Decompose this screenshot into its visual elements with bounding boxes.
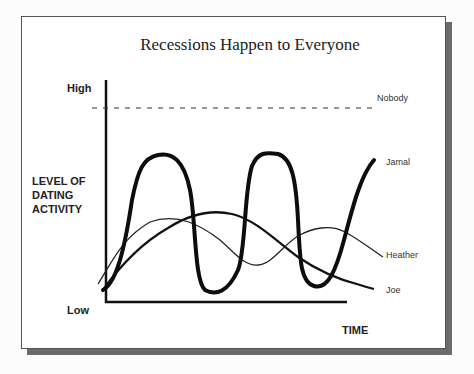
y-tick-low: Low [67,304,89,316]
y-axis-label-line2: DATING [32,189,73,201]
series-label-heather: Heather [386,250,418,260]
series-jamal-line [103,153,374,292]
y-axis-label-line3: ACTIVITY [32,203,83,215]
chart-svg: Recessions Happen to Everyone High Low L… [0,0,474,374]
series-label-nobody: Nobody [377,93,409,103]
y-tick-high: High [67,82,92,94]
x-axis-label: TIME [342,324,368,336]
series-joe-line [103,212,374,290]
series-label-joe: Joe [386,285,401,295]
chart-title: Recessions Happen to Everyone [140,35,360,54]
y-axis-label-line1: LEVEL OF [32,175,86,187]
series-label-jamal: Jamal [386,157,410,167]
